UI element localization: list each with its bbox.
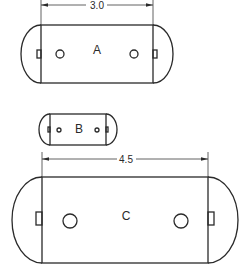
shape-label-a: A: [93, 43, 101, 57]
right-tab: [153, 50, 157, 58]
drawing-canvas: 3.0 A B 4.5: [0, 0, 250, 278]
arrowhead-right-icon: [201, 157, 208, 160]
right-end-arc: [208, 177, 238, 263]
hole-right: [130, 50, 138, 58]
shape-label-c: C: [122, 209, 131, 223]
hole-left: [63, 214, 77, 228]
hole-left: [56, 50, 64, 58]
left-tab: [48, 127, 50, 132]
shape-b: B: [39, 114, 117, 145]
dimension-label-c: 4.5: [119, 154, 133, 165]
dimension-a: 3.0: [41, 0, 153, 25]
left-end-arc: [12, 177, 42, 263]
right-tab: [106, 127, 108, 132]
left-end-arc: [21, 25, 41, 83]
left-tab: [36, 212, 42, 225]
shape-label-b: B: [75, 122, 83, 136]
dimension-c: 4.5: [42, 152, 208, 177]
hole-right: [174, 214, 188, 228]
shape-a: 3.0 A: [21, 0, 173, 83]
shape-c: 4.5 C: [12, 152, 238, 263]
left-tab: [37, 50, 41, 58]
arrowhead-right-icon: [146, 3, 153, 6]
right-tab: [208, 212, 214, 225]
hole-left: [57, 128, 61, 132]
arrowhead-left-icon: [41, 3, 48, 6]
right-end-arc: [153, 25, 173, 83]
hole-right: [95, 128, 99, 132]
dimension-label-a: 3.0: [90, 0, 104, 11]
arrowhead-left-icon: [42, 157, 49, 160]
